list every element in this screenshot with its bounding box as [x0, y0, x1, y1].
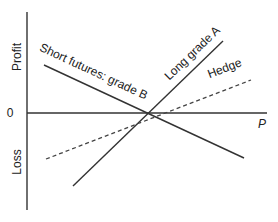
x-axis-label: P: [258, 117, 266, 131]
loss-label: Loss: [10, 149, 24, 174]
short-futures-grade-b-label: Short futures: grade B: [37, 40, 149, 102]
profit-label: Profit: [10, 42, 24, 71]
origin-label: 0: [7, 106, 14, 120]
hedge-label: Hedge: [206, 55, 244, 81]
payoff-diagram: Profit Loss 0 P Long grade A Short futur…: [0, 0, 278, 222]
